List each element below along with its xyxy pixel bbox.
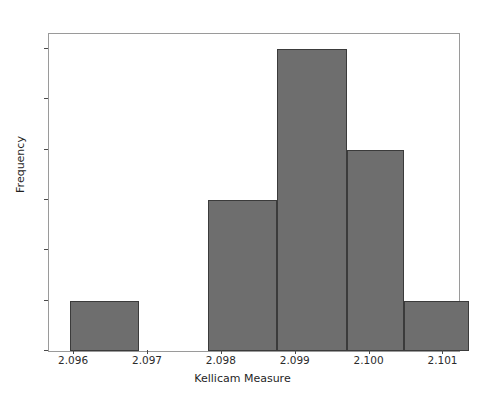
- y-tick-mark: [44, 48, 48, 49]
- x-tick-label: 2.099: [265, 355, 325, 366]
- x-tick-label: 2.096: [43, 355, 103, 366]
- histogram-figure: 0123456 2.0962.0972.0982.0992.1002.101 K…: [0, 0, 485, 399]
- y-tick-mark: [44, 350, 48, 351]
- x-tick-label: 2.097: [117, 355, 177, 366]
- bars-layer: [49, 34, 459, 351]
- y-tick-mark: [44, 149, 48, 150]
- y-tick-mark: [44, 199, 48, 200]
- y-axis-title: Frequency: [14, 105, 27, 225]
- plot-area: [48, 33, 460, 352]
- y-tick-mark: [44, 249, 48, 250]
- y-tick-mark: [44, 98, 48, 99]
- histogram-bar: [404, 301, 468, 351]
- x-tick-label: 2.098: [191, 355, 251, 366]
- x-tick-label: 2.100: [339, 355, 399, 366]
- histogram-bar: [70, 301, 139, 351]
- histogram-bar: [347, 150, 405, 351]
- x-axis-title: Kellicam Measure: [0, 372, 485, 385]
- histogram-bar: [277, 49, 346, 351]
- histogram-bar: [208, 200, 277, 351]
- x-tick-label: 2.101: [412, 355, 472, 366]
- y-tick-mark: [44, 300, 48, 301]
